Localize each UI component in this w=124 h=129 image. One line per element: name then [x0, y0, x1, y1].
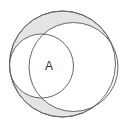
- venn-diagram: A: [0, 0, 124, 129]
- label-a: A: [45, 59, 53, 73]
